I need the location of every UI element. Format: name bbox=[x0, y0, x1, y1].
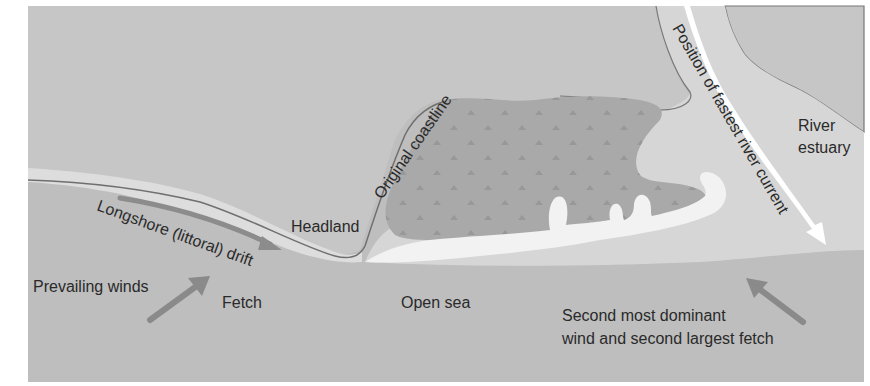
label-headland: Headland bbox=[291, 218, 360, 235]
label-prevailing-winds: Prevailing winds bbox=[33, 278, 149, 295]
label-river-estuary-line1: River bbox=[798, 117, 836, 134]
label-river-estuary-line2: estuary bbox=[798, 139, 850, 156]
label-second-wind-line2: wind and second largest fetch bbox=[561, 330, 774, 347]
label-fetch: Fetch bbox=[222, 294, 262, 311]
label-open-sea: Open sea bbox=[401, 294, 470, 311]
spit-formation-diagram: Original coastline Headland Longshore (l… bbox=[0, 0, 870, 386]
label-second-wind-line1: Second most dominant bbox=[562, 307, 726, 324]
